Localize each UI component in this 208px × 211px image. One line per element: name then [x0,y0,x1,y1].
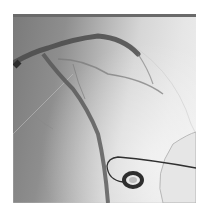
guidewire-and-device [13,14,196,203]
angiogram-image [13,14,196,203]
